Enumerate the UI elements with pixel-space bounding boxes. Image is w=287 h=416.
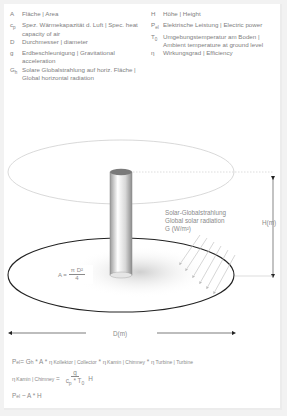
equals: = [54,375,61,382]
eq-g: = G [20,358,30,365]
eta-icon: η [103,359,106,365]
chimney-top [110,169,132,175]
proportional-formula: Pel ~ A * H [12,387,193,404]
diameter-label: D(m) [113,330,127,338]
chimney-fraction: g cp * T0 [64,369,87,387]
radiation-label-de: Solar-Globalstrahlung [165,209,226,217]
area-denominator: 4 [73,275,80,282]
eta-collector: Kollektor | Collector [53,359,96,365]
h-suffix: H [88,375,93,382]
proportional-rhs: ~ A * H [20,392,42,399]
t-sub: 0 [81,381,84,387]
eta-chimney: Kamin | Chimney [107,359,145,365]
radiation-label-unit: G (W/m²) [165,225,226,233]
eta-icon: η [151,359,154,365]
radiation-label: Solar-Globalstrahlung Global solar radia… [165,209,226,232]
eta-icon: η [49,359,52,365]
height-label: H(m) [262,219,276,227]
formulas: Pel = Gh * A * ηKollektor | Collector * … [12,353,193,404]
area-formula: A = π D² 4 [56,265,93,284]
eta-turbine: Turbine | Turbine [155,359,193,365]
radiation-label-en: Global solar radiation [165,217,226,225]
eta-icon: η [12,376,15,382]
numerator-g: g [71,369,79,377]
denominator: cp * T0 [64,377,87,387]
power-formula: Pel = Gh * A * ηKollektor | Collector * … [12,353,193,370]
area-lhs: A = [58,272,67,278]
area-fraction: π D² 4 [69,267,85,282]
chimney-formula: ηKamin | Chimney = g cp * T0 H [12,370,193,387]
times-a: * A * [33,358,49,365]
chimney-tower [110,172,132,275]
times-t: * T [72,377,82,384]
area-numerator: π D² [69,267,85,275]
eta-chimney-label: Kamin | Chimney [16,376,54,382]
